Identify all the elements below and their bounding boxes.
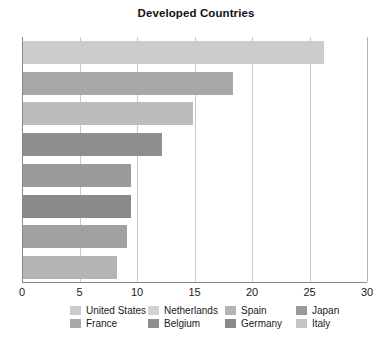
bar-united-states[interactable] xyxy=(23,41,324,64)
legend-label: United States xyxy=(86,305,146,316)
legend-item-germany[interactable]: Germany xyxy=(225,317,282,330)
bars-layer xyxy=(23,37,367,282)
bar-row xyxy=(23,41,367,64)
legend-item-spain[interactable]: Spain xyxy=(225,304,267,317)
bar-row xyxy=(23,195,367,218)
bar-france[interactable] xyxy=(23,164,131,187)
legend-label: Belgium xyxy=(164,318,200,329)
legend-swatch-icon xyxy=(225,319,236,328)
legend-row: United StatesNetherlandsSpainJapan xyxy=(70,304,380,317)
legend-item-belgium[interactable]: Belgium xyxy=(148,317,200,330)
legend-swatch-icon xyxy=(225,306,236,315)
legend-row: FranceBelgiumGermanyItaly xyxy=(70,317,380,330)
bar-row xyxy=(23,225,367,248)
x-axis-tick-labels: 051015202530 xyxy=(0,286,392,302)
legend-swatch-icon xyxy=(70,319,81,328)
chart-legend: United StatesNetherlandsSpainJapanFrance… xyxy=(70,304,380,330)
bar-row xyxy=(23,102,367,125)
legend-label: Spain xyxy=(241,305,267,316)
bar-spain[interactable] xyxy=(23,102,193,125)
bar-italy[interactable] xyxy=(23,256,117,279)
legend-swatch-icon xyxy=(148,306,159,315)
legend-swatch-icon xyxy=(70,306,81,315)
plot-area xyxy=(22,37,367,283)
chart-title: Developed Countries xyxy=(0,7,392,19)
legend-swatch-icon xyxy=(296,319,307,328)
bar-netherlands[interactable] xyxy=(23,72,233,95)
legend-swatch-icon xyxy=(148,319,159,328)
bar-chart: Developed Countries 051015202530 United … xyxy=(0,0,392,346)
legend-label: Japan xyxy=(312,305,339,316)
bar-germany[interactable] xyxy=(23,225,127,248)
bar-japan[interactable] xyxy=(23,133,162,156)
x-tick-label-30: 30 xyxy=(361,286,373,298)
bar-belgium[interactable] xyxy=(23,195,131,218)
bar-row xyxy=(23,256,367,279)
x-tick-label-25: 25 xyxy=(303,286,315,298)
legend-label: Netherlands xyxy=(164,305,218,316)
legend-item-france[interactable]: France xyxy=(70,317,117,330)
legend-label: Germany xyxy=(241,318,282,329)
legend-item-netherlands[interactable]: Netherlands xyxy=(148,304,218,317)
legend-label: Italy xyxy=(312,318,330,329)
bar-row xyxy=(23,72,367,95)
x-tick-label-5: 5 xyxy=(76,286,82,298)
x-tick-label-10: 10 xyxy=(131,286,143,298)
legend-swatch-icon xyxy=(296,306,307,315)
legend-item-italy[interactable]: Italy xyxy=(296,317,330,330)
legend-item-united-states[interactable]: United States xyxy=(70,304,146,317)
gridline-30 xyxy=(367,37,368,282)
x-tick-label-0: 0 xyxy=(19,286,25,298)
bar-row xyxy=(23,133,367,156)
x-tick-label-20: 20 xyxy=(246,286,258,298)
legend-label: France xyxy=(86,318,117,329)
x-tick-label-15: 15 xyxy=(188,286,200,298)
legend-item-japan[interactable]: Japan xyxy=(296,304,339,317)
bar-row xyxy=(23,164,367,187)
